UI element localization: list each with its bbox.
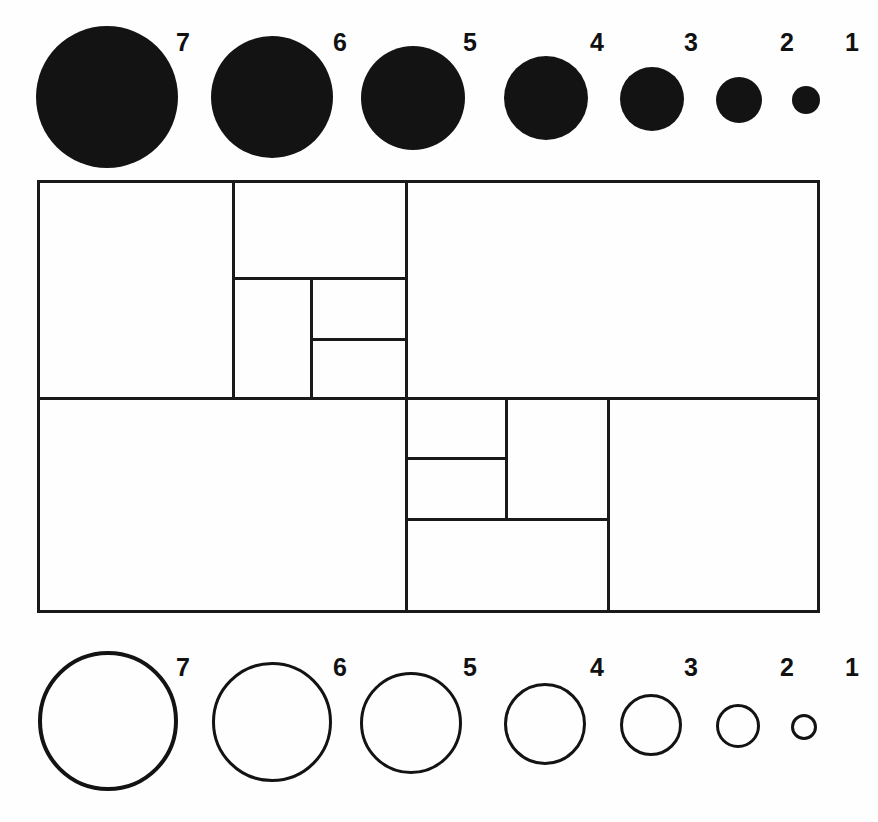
- top-row-label-7: 7: [176, 30, 190, 55]
- figure-canvas: 7654321 7654321: [0, 0, 878, 822]
- bottom-inner-horizontal-b: [405, 518, 607, 521]
- bottom-row-label-5: 5: [463, 655, 477, 680]
- bottom-row-label-2: 2: [780, 655, 794, 680]
- top-row-label-5: 5: [463, 30, 477, 55]
- filled-disc-7: [36, 26, 178, 168]
- top-disc-row: 7654321: [0, 0, 878, 175]
- outline-circle-3: [620, 694, 682, 756]
- filled-disc-6: [211, 36, 333, 158]
- top-inner-horizontal-b: [310, 338, 405, 341]
- outline-circle-1: [791, 714, 817, 740]
- top-inner-horizontal-a: [232, 277, 405, 280]
- bottom-row-label-4: 4: [590, 655, 604, 680]
- filled-disc-4: [504, 56, 588, 140]
- bottom-row-label-7: 7: [176, 655, 190, 680]
- bottom-row-label-6: 6: [333, 655, 347, 680]
- outline-circle-5: [360, 672, 462, 774]
- top-row-label-3: 3: [684, 30, 698, 55]
- filled-disc-3: [620, 67, 684, 131]
- top-row-label-6: 6: [333, 30, 347, 55]
- top-row-label-4: 4: [590, 30, 604, 55]
- rectangle-partition-region: [0, 175, 878, 620]
- outline-circle-6: [212, 662, 332, 782]
- outline-circle-7: [38, 651, 178, 791]
- top-row-label-2: 2: [780, 30, 794, 55]
- bottom-left-vertical-split: [405, 397, 408, 613]
- top-mid-vertical-split: [310, 277, 313, 397]
- bottom-right-vertical-split: [607, 397, 610, 613]
- top-right-vertical-split: [405, 180, 408, 397]
- bottom-inner-horizontal-a: [405, 457, 505, 460]
- mid-horizontal-divider: [37, 397, 820, 400]
- bottom-circle-row: 7654321: [0, 620, 878, 822]
- top-row-label-1: 1: [845, 30, 859, 55]
- bottom-row-label-3: 3: [684, 655, 698, 680]
- filled-disc-1: [792, 86, 820, 114]
- top-left-vertical-split: [232, 180, 235, 397]
- outline-circle-4: [504, 683, 586, 765]
- filled-disc-2: [716, 77, 762, 123]
- bottom-mid-vertical-split: [505, 397, 508, 518]
- bottom-row-label-1: 1: [845, 655, 859, 680]
- filled-disc-5: [361, 46, 465, 150]
- outline-circle-2: [716, 704, 760, 748]
